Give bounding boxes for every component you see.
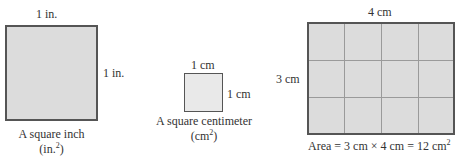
square-inch-caption-line2: (in.2) — [0, 142, 103, 156]
grid-side-label: 3 cm — [276, 72, 300, 86]
grid-vertical-line — [344, 24, 345, 133]
square-inch-side-label: 1 in. — [103, 66, 124, 80]
caption-text: ) — [213, 129, 217, 143]
square-cm-top-label: 1 cm — [191, 58, 215, 72]
grid-vertical-line — [418, 24, 419, 133]
grid-area-caption: Area = 3 cm × 4 cm = 12 cm2 — [308, 139, 451, 153]
square-cm-shape — [184, 73, 223, 112]
square-cm-caption-line1: A square centimeter — [148, 114, 260, 128]
grid-horizontal-line — [309, 60, 453, 61]
caption-text: Area = 3 cm × 4 cm = 12 cm — [308, 139, 447, 153]
square-cm-caption-line2: (cm2) — [148, 129, 260, 143]
grid-top-label: 4 cm — [368, 5, 392, 19]
caption-text: ) — [60, 142, 64, 156]
superscript: 2 — [447, 138, 451, 147]
square-inch-top-label: 1 in. — [36, 7, 57, 21]
square-cm-side-label: 1 cm — [227, 87, 251, 101]
grid-horizontal-line — [309, 97, 453, 98]
square-inch-shape — [5, 25, 98, 121]
square-inch-caption-line1: A square inch — [0, 127, 103, 141]
grid-rectangle — [307, 22, 455, 135]
grid-vertical-line — [381, 24, 382, 133]
caption-text: (in. — [39, 142, 55, 156]
caption-text: (cm — [191, 129, 210, 143]
